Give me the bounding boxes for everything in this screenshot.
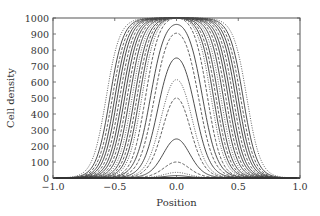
density-curve-t25 <box>53 18 300 178</box>
x-tick-label: 0.5 <box>231 181 246 192</box>
y-tick-label: 800 <box>31 45 49 56</box>
x-tick-label: 1.0 <box>292 181 307 192</box>
y-tick-label: 300 <box>31 125 49 136</box>
density-curve-t5 <box>53 98 300 178</box>
y-tick-label: 200 <box>31 141 49 152</box>
density-curve-t13 <box>53 18 300 178</box>
x-axis-ticks: −1.0−0.50.00.51.0 <box>41 18 307 192</box>
density-curve-t16 <box>53 18 300 178</box>
cell-density-chart: 01002003004005006007008009001000 −1.0−0.… <box>0 0 320 216</box>
density-curves <box>53 18 300 178</box>
y-tick-label: 400 <box>31 109 49 120</box>
y-tick-label: 1000 <box>25 13 49 24</box>
density-curve-t22 <box>53 18 300 178</box>
x-tick-label: 0.0 <box>169 181 184 192</box>
density-curve-t17 <box>53 18 300 178</box>
y-tick-label: 700 <box>31 61 49 72</box>
density-curve-t24 <box>53 18 300 178</box>
density-curve-t12 <box>53 18 300 178</box>
density-curve-t18 <box>53 18 300 178</box>
density-curve-t20 <box>53 18 300 178</box>
density-curve-t8 <box>53 33 300 178</box>
x-tick-label: −1.0 <box>41 181 64 192</box>
y-tick-label: 100 <box>31 157 49 168</box>
y-tick-label: 600 <box>31 77 49 88</box>
y-axis-ticks: 01002003004005006007008009001000 <box>25 13 300 184</box>
plot-frame <box>53 18 300 178</box>
x-axis-label: Position <box>156 197 197 208</box>
density-curve-t10 <box>53 18 300 178</box>
density-curve-t15 <box>53 18 300 178</box>
y-axis-label: Cell density <box>5 68 16 128</box>
density-curve-t9 <box>53 24 300 178</box>
density-curve-t21 <box>53 18 300 178</box>
density-curve-t14 <box>53 18 300 178</box>
density-curve-t19 <box>53 18 300 178</box>
density-curve-t11 <box>53 18 300 178</box>
density-curve-t23 <box>53 18 300 178</box>
density-curve-t7 <box>53 58 300 178</box>
density-curve-t6 <box>53 80 300 178</box>
y-tick-label: 500 <box>31 93 49 104</box>
x-tick-label: −0.5 <box>103 181 126 192</box>
y-tick-label: 900 <box>31 29 49 40</box>
